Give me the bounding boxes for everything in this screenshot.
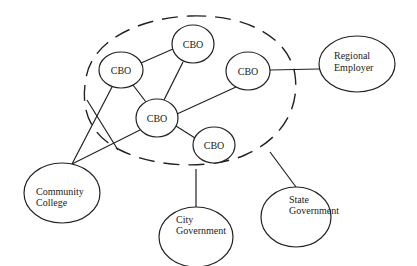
node-label: CBO: [238, 66, 259, 77]
node-label: CBO: [204, 140, 225, 151]
node-label-line2: Government: [289, 205, 339, 216]
node-label-line2: Employer: [334, 62, 374, 73]
node-label-line1: Regional: [334, 50, 370, 61]
node-label-line1: City: [176, 214, 193, 225]
edge-cbo2-cbo4: [164, 62, 183, 100]
node-cbo-1: CBO: [99, 52, 143, 88]
node-city-government: City Government: [159, 207, 233, 266]
node-label-line2: College: [36, 197, 68, 208]
node-cbo-5: CBO: [193, 127, 235, 163]
edge-cbo1-community-college: [72, 87, 112, 164]
edge-cbo3-cbo4: [177, 87, 236, 114]
node-cbo-4: CBO: [136, 99, 178, 137]
edge-cbo4-community-college: [72, 130, 140, 164]
node-community-college: Community College: [24, 163, 100, 223]
edge-boundary-state-government: [270, 152, 296, 187]
edge-cbo4-cbo5: [176, 126, 195, 138]
edge-cbo1-cbo2: [141, 49, 173, 63]
node-state-government: State Government: [261, 187, 339, 247]
node-cbo-2: CBO: [172, 25, 214, 63]
node-label: CBO: [147, 113, 168, 124]
node-label: CBO: [183, 39, 204, 50]
network-diagram: CBO CBO CBO CBO CBO Regional Employer Co…: [0, 0, 417, 266]
node-label-line2: Government: [176, 225, 226, 236]
node-label-line1: State: [289, 194, 310, 205]
node-regional-employer: Regional Employer: [319, 36, 395, 92]
node-label-line1: Community: [36, 186, 84, 197]
node-label: CBO: [111, 65, 132, 76]
node-cbo-3: CBO: [226, 52, 270, 90]
edge-cbo3-regional-employer: [270, 69, 319, 70]
edge-cbo1-cbo4: [133, 85, 146, 102]
